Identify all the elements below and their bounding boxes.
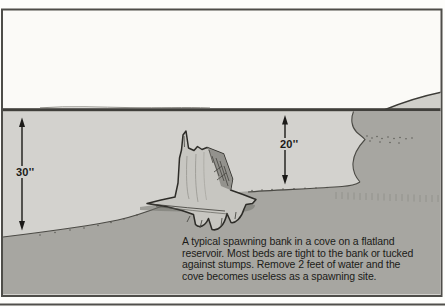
figure-canvas: 30'' 20'' A typical spawning bank in a c… bbox=[0, 0, 445, 307]
depth-label-30: 30'' bbox=[15, 166, 35, 178]
caption-line: cove becomes useless as a spawning site. bbox=[182, 271, 413, 283]
figure-caption: A typical spawning bank in a cove on a f… bbox=[182, 236, 413, 283]
depth-label-20: 20'' bbox=[279, 138, 299, 150]
caption-line: A typical spawning bank in a cove on a f… bbox=[182, 236, 413, 248]
water-surface-line bbox=[3, 108, 442, 111]
